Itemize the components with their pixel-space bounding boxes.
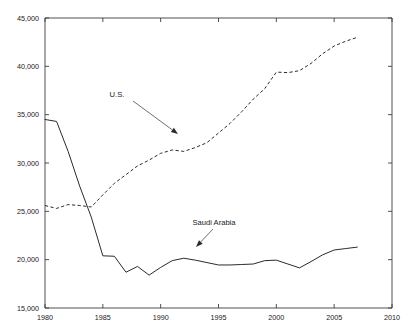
x-axis-label-1995: 1995 (211, 313, 227, 322)
y-axis-label-30000: 30,000 (17, 159, 39, 168)
y-axis-label-40000: 40,000 (17, 62, 39, 71)
line-chart: 15,00020,00025,00030,00035,00040,00045,0… (0, 0, 410, 328)
annotation-label-u-s: U.S. (110, 90, 125, 99)
chart-container: 15,00020,00025,00030,00035,00040,00045,0… (0, 0, 410, 328)
y-axis-label-35000: 35,000 (17, 110, 39, 119)
y-axis-label-20000: 20,000 (17, 255, 39, 264)
x-axis-label-2010: 2010 (384, 313, 400, 322)
y-axis-label-45000: 45,000 (17, 14, 39, 23)
annotation-label-saudi-arabia: Saudi Arabia (192, 218, 236, 227)
x-axis-label-1985: 1985 (95, 313, 111, 322)
x-axis-label-2000: 2000 (268, 313, 284, 322)
x-axis-label-1980: 1980 (37, 313, 53, 322)
x-axis-label-1990: 1990 (153, 313, 169, 322)
x-axis-label-2005: 2005 (326, 313, 342, 322)
y-axis-label-25000: 25,000 (17, 207, 39, 216)
chart-background (0, 0, 410, 328)
y-axis-label-15000: 15,000 (17, 304, 39, 313)
